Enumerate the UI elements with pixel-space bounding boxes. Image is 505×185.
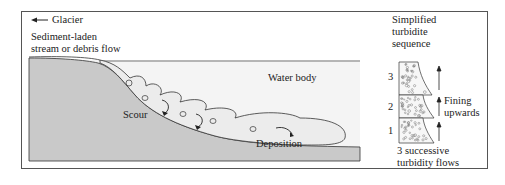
source-label-line1: Sediment-laden — [31, 31, 97, 43]
layer-label-3: 3 — [388, 71, 393, 83]
scour-label: Scour — [123, 109, 148, 121]
fining-label-line1: Fining — [444, 95, 471, 107]
layer-2 — [399, 95, 434, 118]
sequence-title-line2: turbidite — [392, 26, 428, 38]
water-body-label: Water body — [268, 72, 316, 84]
flows-label-line1: 3 successive — [397, 145, 449, 157]
flows-label-line2: turbidity flows — [397, 157, 459, 169]
sequence-title-line3: sequence — [392, 38, 430, 50]
glacier-arrow-icon — [31, 18, 48, 23]
glacier-label: Glacier — [52, 14, 83, 26]
source-label-line2: stream or debris flow — [31, 43, 121, 55]
fining-label-line2: upwards — [444, 107, 480, 119]
deposition-label: Deposition — [256, 138, 302, 150]
turbidite-column — [399, 62, 434, 143]
fining-arrows — [437, 66, 441, 141]
layer-label-2: 2 — [388, 101, 393, 113]
layer-label-1: 1 — [388, 125, 393, 137]
sequence-title-line1: Simplified — [392, 14, 436, 26]
